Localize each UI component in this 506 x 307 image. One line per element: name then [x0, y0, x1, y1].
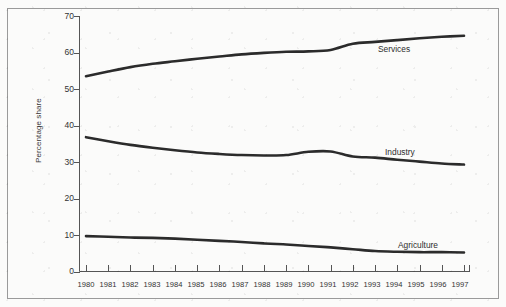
series-line-agriculture — [86, 236, 464, 252]
series-line-services — [86, 36, 464, 77]
x-axis-ticks — [87, 265, 470, 272]
plot-area — [0, 0, 506, 307]
series-line-industry — [86, 137, 464, 164]
chart-figure: Percentage share 70 60 50 40 30 20 10 0 … — [0, 0, 506, 307]
series-lines — [86, 36, 464, 253]
